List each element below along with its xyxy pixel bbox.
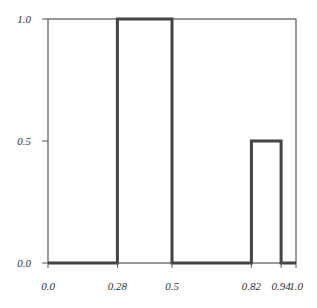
y-tick-label: 0.5 <box>17 135 31 147</box>
y-tick-label: 0.0 <box>17 257 31 269</box>
step-line <box>48 19 296 263</box>
step-chart: 0.00.280.50.820.941.0 0.00.51.0 <box>0 0 317 308</box>
x-tick-label: 0.0 <box>41 280 55 292</box>
x-tick-label: 0.5 <box>165 280 179 292</box>
y-tick-label: 1.0 <box>17 13 31 25</box>
x-axis-ticks: 0.00.280.50.820.941.0 <box>41 263 303 292</box>
x-tick-label: 0.82 <box>242 280 262 292</box>
series-step-line <box>48 19 296 263</box>
x-tick-label: 1.0 <box>289 280 303 292</box>
x-tick-label: 0.28 <box>108 280 128 292</box>
y-axis-ticks: 0.00.51.0 <box>17 13 48 269</box>
